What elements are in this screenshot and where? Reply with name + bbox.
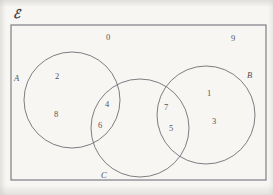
set-label-c: C	[101, 171, 107, 180]
universal-set-symbol: ℰ	[13, 8, 20, 20]
set-circle-b	[157, 66, 255, 164]
element-3: 3	[212, 117, 216, 126]
venn-diagram-page: ℰ A B C 0 9 2 8 4 6 7 5 1 3	[0, 0, 273, 195]
element-5: 5	[169, 124, 173, 133]
element-1: 1	[207, 89, 211, 98]
set-label-a: A	[14, 74, 19, 83]
element-7: 7	[164, 103, 168, 112]
set-circle-c	[91, 79, 189, 177]
set-label-b: B	[247, 71, 252, 80]
element-9: 9	[231, 34, 235, 43]
venn-diagram-canvas	[0, 0, 273, 195]
element-4: 4	[105, 100, 109, 109]
element-2: 2	[55, 72, 59, 81]
element-8: 8	[54, 110, 58, 119]
element-0: 0	[106, 33, 110, 42]
element-6: 6	[98, 121, 102, 130]
universal-set-rectangle	[11, 25, 266, 180]
